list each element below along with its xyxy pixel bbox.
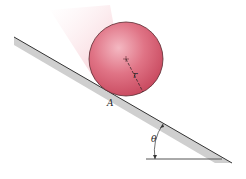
angle-label: θ bbox=[151, 134, 156, 144]
radius-label: r bbox=[133, 70, 137, 80]
contact-point-label: A bbox=[107, 98, 114, 108]
ball-on-incline-diagram bbox=[0, 0, 246, 179]
